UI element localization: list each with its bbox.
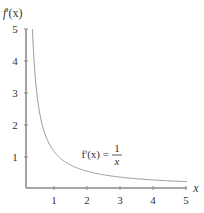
y-axis-title-rest: '(x) [6, 6, 22, 20]
y-tick-label-4: 4 [12, 55, 18, 67]
y-tick-label-2: 2 [12, 119, 18, 131]
x-tick-label-1: 1 [51, 194, 57, 206]
y-tick-label-1: 1 [12, 151, 18, 163]
x-tick-label-4: 4 [150, 194, 156, 206]
y-tick-label-3: 3 [12, 87, 18, 99]
annotation-lhs: f'(x) = [82, 148, 109, 161]
x-axis-title: x [192, 181, 199, 195]
y-axis-title: f'(x) [3, 6, 23, 20]
y-tick-label-5: 5 [12, 23, 18, 35]
curve-one-over-x [32, 29, 187, 182]
x-tick-label-5: 5 [183, 194, 189, 206]
x-tick-label-2: 2 [84, 194, 90, 206]
chart: 5 4 3 2 1 1 2 3 4 5 x f'(x) f'(x) = 1 x [0, 0, 204, 213]
x-tick-label-3: 3 [117, 194, 123, 206]
annotation-denominator: x [114, 155, 120, 167]
annotation-numerator: 1 [114, 142, 120, 154]
